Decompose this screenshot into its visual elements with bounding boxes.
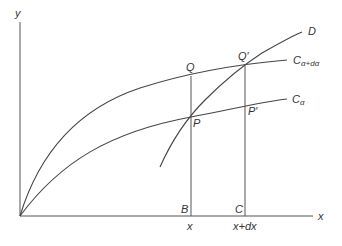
envelope-diagram: y x D Cα+dα Cα Q Q′ P P′ B C x x+dx: [0, 0, 342, 246]
x-tick-x: x: [186, 220, 193, 232]
label-c-alpha-dalpha: Cα+dα: [293, 54, 320, 68]
point-b-label: B: [181, 203, 188, 215]
point-q-prime-label: Q′: [238, 50, 250, 62]
point-c-label: C: [235, 203, 243, 215]
label-c-alpha-dalpha-sub: α+dα: [301, 59, 320, 68]
label-c-alpha-sub: α: [300, 98, 305, 107]
label-c-alpha-dalpha-main: C: [293, 54, 301, 66]
x-axis-label: x: [317, 210, 324, 222]
y-axis-label: y: [14, 7, 22, 19]
label-c-alpha-main: C: [292, 93, 300, 105]
point-p-label: P: [193, 117, 201, 129]
point-p-prime-label: P′: [248, 105, 258, 117]
curve-c-alpha-dalpha: [20, 60, 287, 216]
point-q-label: Q: [186, 61, 195, 73]
curve-c-alpha: [20, 99, 287, 216]
label-c-alpha: Cα: [292, 93, 305, 107]
x-tick-x-plus-dx: x+dx: [232, 220, 257, 232]
label-d: D: [308, 25, 316, 37]
